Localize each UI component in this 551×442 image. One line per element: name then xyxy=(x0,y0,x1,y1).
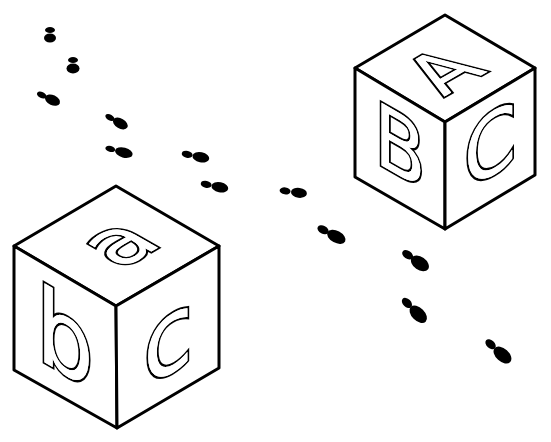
footprint xyxy=(398,294,430,326)
footprint xyxy=(482,335,515,366)
lowercase-block: a a b b c c xyxy=(14,186,219,428)
footprint xyxy=(104,143,134,160)
illustration: A A B B C C a a b b c c xyxy=(0,0,551,442)
footprint xyxy=(44,27,56,43)
footprint xyxy=(35,88,62,108)
footprint xyxy=(67,57,80,74)
uppercase-block: A A B B C C xyxy=(355,15,535,229)
footprint xyxy=(103,111,130,132)
footprint xyxy=(315,222,348,247)
footprint xyxy=(181,148,210,164)
footprint xyxy=(200,178,229,194)
footprint xyxy=(279,185,308,199)
footprint xyxy=(399,246,432,274)
